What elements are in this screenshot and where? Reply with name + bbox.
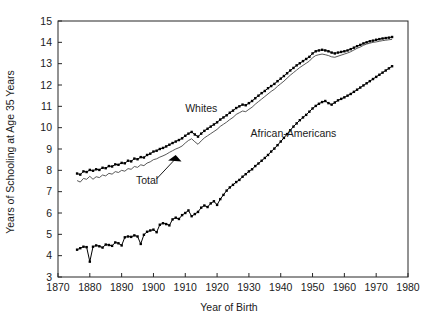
y-tick-label: 11 xyxy=(41,100,52,112)
x-axis-tick-labels: 1870188018901900191019201930194019501960… xyxy=(46,281,420,293)
x-axis-title: Year of Birth xyxy=(200,301,258,313)
y-axis-title: Years of Schooling at Age 35 Years xyxy=(4,70,16,234)
x-tick-label: 1940 xyxy=(269,281,293,293)
x-tick-label: 1950 xyxy=(301,281,325,293)
total-leader-arrow xyxy=(157,155,182,179)
data-series-group xyxy=(76,36,393,263)
annotation-african-americans: African-Americans xyxy=(251,127,337,139)
x-tick-label: 1960 xyxy=(333,281,357,293)
y-tick-label: 10 xyxy=(40,121,52,133)
series-african-americans xyxy=(76,65,393,263)
x-tick-label: 1890 xyxy=(110,281,134,293)
y-tick-label: 5 xyxy=(46,228,52,240)
y-tick-label: 7 xyxy=(46,185,52,197)
series-whites xyxy=(76,36,393,176)
y-tick-label: 4 xyxy=(46,249,52,261)
x-tick-label: 1930 xyxy=(237,281,261,293)
y-tick-label: 14 xyxy=(40,36,52,48)
y-axis-ticks xyxy=(58,21,62,277)
annotation-whites: Whites xyxy=(185,102,217,114)
x-tick-label: 1880 xyxy=(78,281,102,293)
x-tick-label: 1980 xyxy=(396,281,420,293)
y-tick-label: 13 xyxy=(40,57,52,69)
x-tick-label: 1910 xyxy=(174,281,198,293)
plot-frame xyxy=(58,21,408,277)
y-tick-label: 12 xyxy=(40,79,52,91)
y-tick-label: 3 xyxy=(46,271,52,283)
y-tick-label: 6 xyxy=(46,207,52,219)
y-axis-tick-labels: 3456789101112131415 xyxy=(40,15,52,283)
y-tick-label: 15 xyxy=(40,15,52,27)
y-tick-label: 8 xyxy=(46,164,52,176)
series-total xyxy=(77,39,392,182)
x-tick-label: 1900 xyxy=(142,281,166,293)
schooling-by-birth-year-chart: 1870188018901900191019201930194019501960… xyxy=(0,0,443,328)
x-tick-label: 1970 xyxy=(365,281,389,293)
chart-figure: 1870188018901900191019201930194019501960… xyxy=(0,0,443,328)
x-axis-ticks xyxy=(58,273,408,277)
y-tick-label: 9 xyxy=(46,143,52,155)
annotation-total: Total xyxy=(136,174,158,186)
x-tick-label: 1920 xyxy=(205,281,229,293)
